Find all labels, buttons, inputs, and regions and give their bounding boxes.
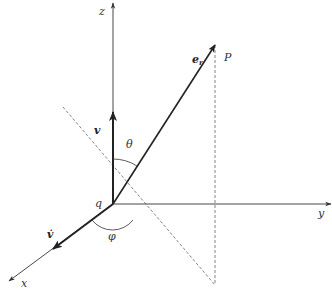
radial-unit-vector bbox=[113, 45, 215, 204]
theta-label: θ bbox=[126, 138, 133, 151]
velocity-label: v bbox=[94, 124, 101, 137]
acceleration-vector bbox=[53, 204, 113, 249]
charge-label: q bbox=[95, 197, 102, 210]
phi-label: φ bbox=[108, 230, 116, 243]
spherical-coordinates-diagram: z y x q v v̇ er P θ φ bbox=[0, 0, 332, 291]
y-axis-label: y bbox=[317, 207, 325, 220]
radial-unit-label: er bbox=[192, 53, 204, 67]
projection-line-diagonal bbox=[63, 107, 215, 285]
theta-arc bbox=[113, 159, 137, 166]
acceleration-label: v̇ bbox=[47, 228, 54, 241]
phi-arc bbox=[92, 220, 133, 230]
x-axis-label: x bbox=[21, 277, 28, 290]
z-axis-label: z bbox=[98, 5, 105, 18]
radial-unit-base: e bbox=[192, 53, 199, 66]
point-label: P bbox=[223, 51, 232, 64]
